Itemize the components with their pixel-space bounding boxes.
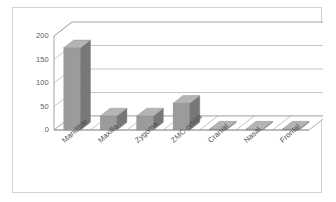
x-tick-label: ZMC-orbita [169, 112, 204, 144]
x-tick-label: Maxilla [96, 122, 120, 145]
chart-frame: 050100150200 MandibleMaxillaZygomaZMC-or… [12, 7, 322, 193]
x-tick-label: Mandible [60, 117, 89, 145]
plot-area: 050100150200 MandibleMaxillaZygomaZMC-or… [13, 8, 323, 194]
x-tick-label: Cranial [206, 122, 230, 145]
x-tick-label: Zygoma [133, 119, 160, 144]
x-axis: MandibleMaxillaZygomaZMC-orbitaCranialNa… [13, 8, 323, 194]
x-tick-label: Frontal [278, 122, 302, 145]
x-tick-label: Nasal [242, 125, 263, 145]
